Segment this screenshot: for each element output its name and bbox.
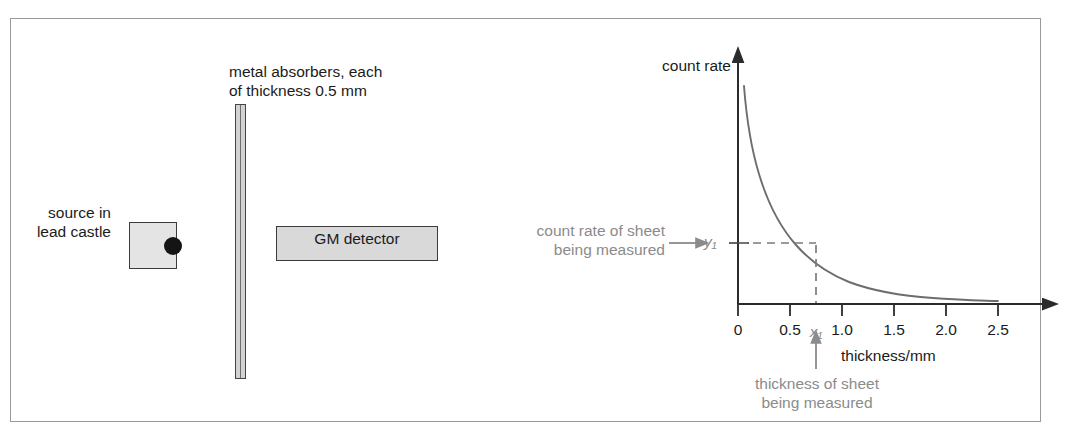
absorbers-label: metal absorbers, each of thickness 0.5 m… [229,62,459,100]
x-tick-label-0p5: 0.5 [775,320,805,339]
x-tick-label-2p5: 2.5 [983,320,1013,339]
radioactive-source-dot [164,237,182,255]
y1-annotation: count rate of sheet being measured [503,221,665,259]
x-tick-label-2p0: 2.0 [931,320,961,339]
figure-root: source in lead castle metal absorbers, e… [0,0,1070,433]
source-label: source in lead castle [1,203,111,241]
x1-label: x₁ [805,322,827,341]
x-tick-label-1p5: 1.5 [879,320,909,339]
decay-curve [744,86,998,301]
count-rate-graph: count rate count rate of sheet being mea… [511,39,1070,433]
x-axis-label: thickness/mm [841,346,1021,365]
detector-label: GM detector [266,229,448,248]
metal-absorber-stack [235,104,246,379]
diagram-frame: source in lead castle metal absorbers, e… [10,18,1041,422]
y-axis-label: count rate [541,56,731,75]
x-axis-ticks [738,304,998,316]
x1-annotation: thickness of sheet being measured [729,374,905,412]
x-tick-label-1p0: 1.0 [827,320,857,339]
clipped-caption-above-frame [247,5,547,17]
y1-label: y₁ [704,232,728,251]
x-tick-label-0: 0 [726,320,750,339]
